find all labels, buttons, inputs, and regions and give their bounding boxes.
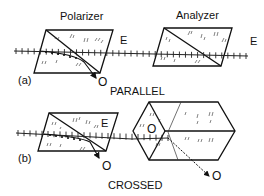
o-label-b-left: O: [102, 159, 111, 173]
analyzer-prism-a: [153, 28, 232, 66]
o-label-b-exit: O: [212, 169, 221, 183]
e-ray-a: [14, 48, 248, 59]
analyzer-title: Analyzer: [176, 9, 219, 21]
polarizer-analyzer-diagram: Polarizer Analyzer: [0, 0, 264, 196]
part-b-label: (b): [18, 152, 31, 164]
crossed-caption: CROSSED: [108, 179, 162, 191]
o-label-a: O: [98, 75, 107, 89]
o-ray-a: [40, 51, 96, 78]
e-label-a-mid: E: [120, 34, 127, 46]
o-label-b-in-prism: O: [147, 122, 156, 136]
e-ray-b: [16, 130, 168, 141]
o-ray-b: [44, 134, 99, 158]
e-label-b: E: [101, 117, 108, 129]
e-label-a-right: E: [250, 35, 257, 47]
o-ray-b-exit: [132, 138, 209, 176]
part-a-label: (a): [18, 74, 31, 86]
parallel-caption: PARALLEL: [110, 85, 165, 97]
polarizer-title: Polarizer: [60, 10, 104, 22]
